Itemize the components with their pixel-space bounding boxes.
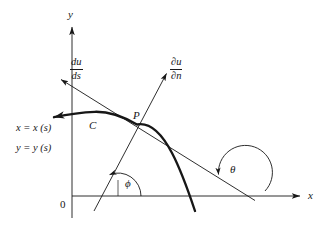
tangent-derivative-label: du ds (70, 56, 83, 82)
angle-theta-arc (218, 145, 272, 191)
tangent-derivative-numerator: du (70, 56, 83, 70)
normal-line (94, 74, 167, 212)
tangent-derivative-denominator: ds (70, 70, 83, 83)
normal-derivative-denominator: ∂n (170, 70, 182, 83)
tangent-line (61, 80, 255, 201)
angle-phi-label: ϕ (125, 178, 131, 189)
normal-derivative-numerator: ∂u (170, 56, 182, 70)
y-axis-label: y (68, 9, 73, 20)
normal-derivative-label: ∂u ∂n (170, 56, 182, 82)
angle-theta-label: θ (230, 164, 235, 175)
param-y-label: y = y (s) (16, 143, 51, 154)
origin-label: 0 (60, 199, 66, 210)
param-x-label: x = x (s) (16, 123, 51, 134)
figure-directional-derivative: y x 0 P C x = x (s) y = y (s) ϕ θ du ds … (0, 0, 328, 234)
point-p-label: P (133, 110, 140, 121)
curve-c-label: C (89, 120, 96, 131)
x-axis-label: x (308, 190, 313, 201)
diagram-canvas (0, 0, 328, 234)
